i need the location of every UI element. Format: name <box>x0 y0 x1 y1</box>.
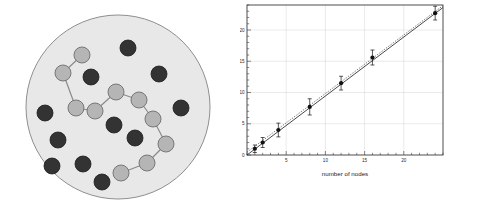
chart-x-tick-label: 10 <box>323 158 329 163</box>
chart-y-ticks: 05101520 <box>240 5 251 158</box>
chart-data-point <box>253 147 257 151</box>
network-node-dark <box>151 66 167 82</box>
chart-data-point <box>339 81 343 85</box>
network-node-dark <box>94 174 110 190</box>
speedup-chart-panel: 5101520 05101520 number of nodes relativ… <box>240 0 481 214</box>
chart-x-tick-label: 15 <box>362 158 368 163</box>
network-diagram-panel <box>0 0 240 214</box>
network-node-dark <box>44 158 60 174</box>
network-node-dark <box>75 156 91 172</box>
network-node-light <box>108 84 124 100</box>
chart-x-tick-label: 5 <box>285 158 288 163</box>
chart-data-point <box>276 128 280 132</box>
network-node-dark <box>120 40 136 56</box>
network-node-light <box>113 165 129 181</box>
network-node-light <box>145 111 161 127</box>
speedup-chart-svg: 5101520 05101520 number of nodes relativ… <box>240 0 481 214</box>
chart-y-tick-label: 0 <box>242 153 245 158</box>
chart-fit-solid <box>247 8 443 156</box>
chart-y-tick-label: 5 <box>242 121 245 126</box>
network-diagram-svg <box>0 0 240 214</box>
chart-y-tick-label: 15 <box>240 59 245 64</box>
network-node-dark <box>127 130 143 146</box>
chart-x-axis-label: number of nodes <box>322 170 368 177</box>
network-node-light <box>74 47 90 63</box>
chart-y-tick-label: 10 <box>240 90 245 95</box>
network-node-light <box>158 136 174 152</box>
network-node-light <box>68 100 84 116</box>
network-node-dark <box>37 105 53 121</box>
network-node-dark <box>83 69 99 85</box>
chart-data-point <box>261 140 265 144</box>
network-node-dark <box>173 100 189 116</box>
chart-x-tick-label: 20 <box>401 158 407 163</box>
chart-data-point <box>308 105 312 109</box>
figure-root: 5101520 05101520 number of nodes relativ… <box>0 0 481 214</box>
chart-y-tick-label: 20 <box>240 28 245 33</box>
chart-data-point <box>433 11 437 15</box>
chart-fit-lines <box>247 6 443 155</box>
network-node-light <box>87 103 103 119</box>
network-node-light <box>131 92 147 108</box>
network-node-dark <box>106 117 122 133</box>
network-node-light <box>55 65 71 81</box>
network-node-light <box>139 155 155 171</box>
chart-error-bars <box>253 6 437 152</box>
chart-data-point <box>370 55 374 59</box>
network-node-dark <box>50 132 66 148</box>
chart-x-ticks: 5101520 <box>247 151 443 163</box>
